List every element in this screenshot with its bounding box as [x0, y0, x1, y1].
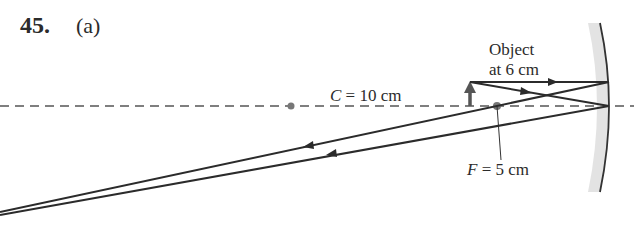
focal-label: F = 5 cm [467, 160, 529, 180]
ray-diagram [0, 0, 634, 225]
center-point [288, 103, 295, 110]
center-label: C = 10 cm [330, 86, 401, 106]
arrow-icon [520, 87, 532, 95]
object-label-line1: Object [489, 40, 539, 60]
object-label-line2: at 6 cm [489, 60, 539, 80]
focal-leader-line [497, 106, 501, 160]
arrow-icon [548, 78, 558, 86]
object-label: Object at 6 cm [489, 40, 539, 80]
